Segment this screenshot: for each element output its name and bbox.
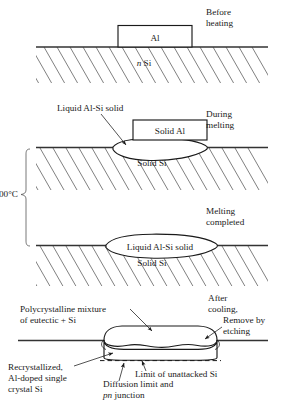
substrate-hatching-1 (18, 47, 276, 89)
stage-label-after-line1: After (208, 293, 227, 303)
diffusion-limit-label-line1: Diffusion limit and (103, 379, 174, 389)
liquid-alsi-leader-line (101, 114, 126, 145)
temperature-label: 600°C (0, 189, 18, 199)
liquid-alsi-pool-label: Liquid Al-Si solid (127, 242, 194, 252)
panel-melting-completed: Liquid Al-Si solid Solid Si Melting comp… (14, 206, 272, 288)
figure-container: Al n Si Before heating (0, 0, 286, 409)
limit-unattacked-label: Limit of unattacked Si (135, 369, 218, 379)
substrate-material: Si (141, 58, 151, 68)
alloying-sequence-diagram: Al n Si Before heating (0, 0, 286, 409)
panel-during-melting: Solid Al Liquid Al-Si solid Solid Si Dur… (14, 103, 272, 190)
pn-junction-rest: junction (112, 390, 145, 400)
polycrystalline-label-line2: of eutectic + Si (20, 315, 76, 325)
recrystallized-label-line1: Recrystallized, (8, 362, 63, 372)
stage-label-during-line1: During (206, 109, 232, 119)
pn-junction-italic: pn (102, 390, 113, 400)
solid-aluminum-label: Solid Al (155, 126, 186, 136)
stage-label-melting-line1: Melting (206, 206, 235, 216)
aluminum-block-label: Al (150, 33, 160, 43)
temperature-bracket (21, 149, 30, 246)
panel-after-cooling: After cooling, Remove by etching Polycry… (8, 293, 268, 400)
recrystallized-label-line2: Al-doped single (8, 373, 67, 383)
recrystallized-label-line3: crystal Si (8, 384, 43, 394)
svg-text:n Si: n Si (137, 58, 152, 68)
solid-si-label-2: Solid Si (137, 158, 167, 168)
stage-label-during-line2: melting (206, 120, 234, 130)
stage-label-melting-line2: completed (206, 217, 245, 227)
remove-by-etching-line1: Remove by (223, 315, 266, 325)
polycrystalline-label-line1: Polycrystalline mixture (20, 304, 106, 314)
stage-label-before-line2: heating (206, 18, 233, 28)
temperature-bracket-group: 600°C (0, 149, 30, 246)
liquid-alsi-callout-label: Liquid Al-Si solid (57, 103, 124, 113)
diffusion-limit-label-line2: pn junction (102, 390, 145, 400)
solid-si-label-3: Solid Si (137, 258, 167, 268)
stage-label-before-line1: Before (206, 7, 231, 17)
substrate-label-1: n Si (137, 58, 152, 68)
polycrystalline-mound (104, 326, 217, 347)
remove-by-etching-line2: etching (223, 326, 250, 336)
panel-before-heating: Al n Si Before heating (18, 7, 276, 89)
stage-label-after-line2: cooling, (208, 304, 238, 314)
